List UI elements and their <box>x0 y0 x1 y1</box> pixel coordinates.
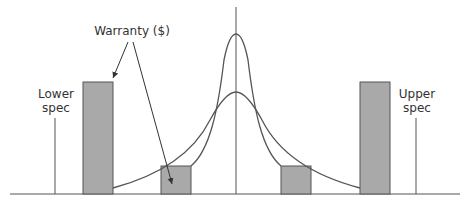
bar-short-left <box>161 166 191 194</box>
upper-spec-label-line1: Upper <box>396 87 438 101</box>
warranty-arrow-right <box>133 42 172 184</box>
bar-short-right <box>281 166 311 194</box>
upper-spec-label: Upper spec <box>396 87 438 115</box>
warranty-label: Warranty ($) <box>92 24 172 38</box>
lower-spec-label-line2: spec <box>36 101 76 115</box>
lower-spec-label: Lower spec <box>36 87 76 115</box>
upper-spec-label-line2: spec <box>396 101 438 115</box>
bar-tall-right <box>360 82 390 194</box>
bar-tall-left <box>83 82 113 194</box>
warranty-arrow-left <box>113 42 128 78</box>
lower-spec-label-line1: Lower <box>36 87 76 101</box>
